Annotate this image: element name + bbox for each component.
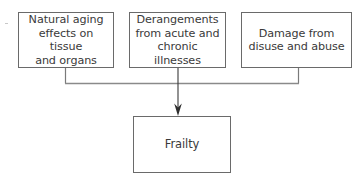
cause-box-derangements: Derangements from acute and chronic illn… (129, 12, 226, 68)
cause-box-disuse-damage: Damage from disuse and abuse (241, 12, 352, 68)
frailty-causes-diagram: Natural aging effects on tissue and orga… (0, 0, 360, 182)
outcome-label-frailty: Frailty (165, 138, 200, 152)
cause-box-natural-aging: Natural aging effects on tissue and orga… (18, 12, 114, 68)
outcome-box-frailty: Frailty (133, 116, 231, 173)
cause-label-natural-aging: Natural aging effects on tissue and orga… (22, 13, 110, 67)
cause-label-disuse-damage: Damage from disuse and abuse (248, 27, 344, 54)
cause-label-derangements: Derangements from acute and chronic illn… (133, 13, 222, 67)
